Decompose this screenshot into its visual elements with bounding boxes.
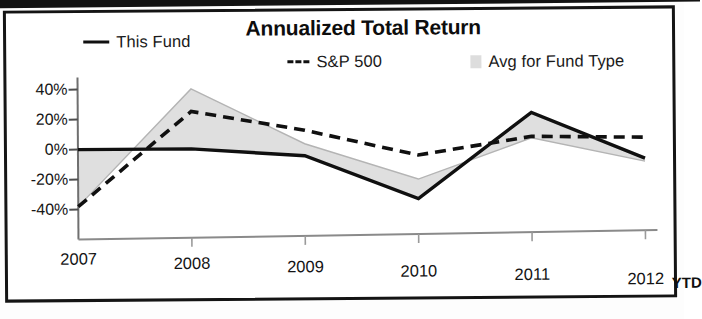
plot-area: 40%20%0%-20%-40% 20072008200920102011201… <box>0 0 685 319</box>
x-axis-tick-label-2011: 2011 <box>514 265 550 284</box>
chart-plot-svg <box>0 0 685 319</box>
y-axis-tick-label: -40% <box>6 201 68 219</box>
x-axis-tick-label-2009: 2009 <box>287 257 324 276</box>
y-axis-tick-label: 20% <box>6 111 68 129</box>
y-axis-tick-label: -20% <box>6 171 68 189</box>
x-axis-tick-label-2012: 2012 <box>627 269 664 288</box>
x-axis-ytd-note: YTD <box>672 273 702 290</box>
x-axis-spine <box>78 230 657 240</box>
avg-fund-type-shaded-band <box>78 86 646 206</box>
y-axis-tick-label: 40% <box>6 81 68 99</box>
y-axis-tick-labels: 40%20%0%-20%-40% <box>0 2 69 319</box>
x-axis-tick-label-2008: 2008 <box>174 253 211 272</box>
x-axis-tick-label-2010: 2010 <box>400 261 437 280</box>
y-axis-spine <box>77 78 78 240</box>
chart-content: Annualized Total Return This Fund S&P 50… <box>0 0 685 319</box>
y-axis-tick-label: 0% <box>6 141 68 159</box>
x-axis-tick-label-2007: 2007 <box>60 249 97 268</box>
